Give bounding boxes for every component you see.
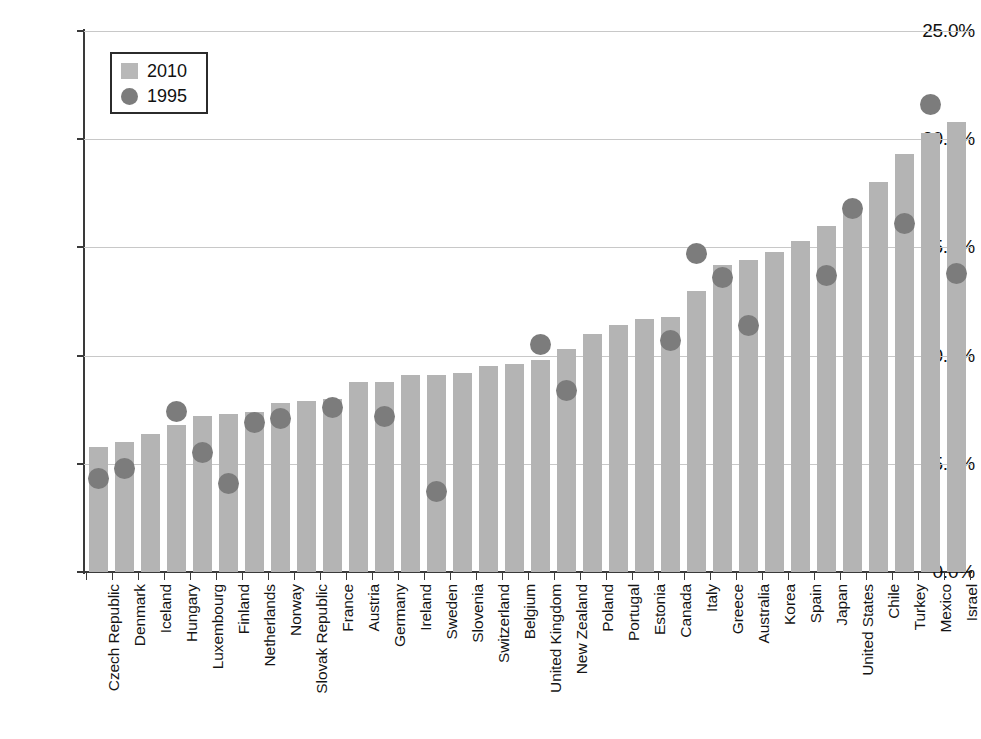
x-tick-label-turkey: Turkey — [911, 584, 929, 630]
legend-item-1995: 1995 — [121, 84, 187, 108]
x-tick-mark — [216, 572, 217, 580]
x-tick-label-italy: Italy — [703, 584, 721, 612]
x-tick-mark — [294, 572, 295, 580]
x-tick-mark — [554, 572, 555, 580]
x-tick-mark — [450, 572, 451, 580]
x-tick-mark — [762, 572, 763, 580]
x-tick-label-austria: Austria — [365, 584, 383, 632]
bar-chile — [869, 182, 888, 572]
dot-united-kingdom — [530, 334, 551, 355]
bar-estonia — [635, 319, 654, 572]
gridline — [84, 356, 972, 357]
dot-united-states — [842, 198, 863, 219]
x-tick-mark — [476, 572, 477, 580]
x-tick-label-france: France — [339, 584, 357, 632]
x-tick-label-switzerland: Switzerland — [495, 584, 513, 663]
bar-switzerland — [479, 366, 498, 572]
x-tick-mark — [86, 572, 87, 580]
x-tick-mark — [502, 572, 503, 580]
x-tick-mark — [658, 572, 659, 580]
x-tick-mark — [866, 572, 867, 580]
x-tick-label-portugal: Portugal — [625, 584, 643, 641]
legend-label-1995: 1995 — [147, 87, 187, 105]
x-tick-label-korea: Korea — [781, 584, 799, 625]
plot-area — [84, 31, 972, 572]
x-tick-mark — [528, 572, 529, 580]
dot-israel — [946, 263, 967, 284]
x-tick-mark — [398, 572, 399, 580]
x-tick-label-hungary: Hungary — [183, 584, 201, 642]
x-tick-mark — [710, 572, 711, 580]
dot-france — [322, 397, 343, 418]
bar-mexico — [921, 133, 940, 572]
bar-austria — [349, 382, 368, 572]
x-tick-label-poland: Poland — [599, 584, 617, 632]
x-tick-mark — [684, 572, 685, 580]
bar-united-states — [843, 206, 862, 572]
bar-united-kingdom — [531, 360, 550, 572]
bar-poland — [583, 334, 602, 572]
x-tick-label-estonia: Estonia — [651, 584, 669, 635]
legend-dot-swatch-icon — [121, 88, 138, 105]
bar-australia — [739, 260, 758, 572]
x-tick-label-denmark: Denmark — [131, 584, 149, 646]
x-tick-label-greece: Greece — [729, 584, 747, 634]
x-tick-mark — [190, 572, 191, 580]
x-tick-mark — [606, 572, 607, 580]
x-tick-mark — [580, 572, 581, 580]
bar-israel — [947, 122, 966, 572]
x-tick-label-finland: Finland — [235, 584, 253, 634]
x-tick-label-netherlands: Netherlands — [261, 584, 279, 666]
dot-finland — [218, 473, 239, 494]
dot-hungary — [166, 401, 187, 422]
gridline — [84, 247, 972, 248]
gridline — [84, 464, 972, 465]
x-tick-label-norway: Norway — [287, 584, 305, 636]
bar-korea — [765, 252, 784, 572]
x-tick-label-slovak-republic: Slovak Republic — [313, 584, 331, 694]
x-tick-mark — [268, 572, 269, 580]
legend-label-2010: 2010 — [147, 62, 187, 80]
gridline — [84, 31, 972, 32]
x-tick-label-new-zealand: New Zealand — [573, 584, 591, 674]
x-tick-mark — [814, 572, 815, 580]
bar-iceland — [141, 434, 160, 572]
x-tick-mark — [970, 572, 971, 580]
dot-germany — [374, 406, 395, 427]
x-tick-label-united-states: United States — [859, 584, 877, 676]
x-tick-label-slovenia: Slovenia — [469, 584, 487, 643]
dot-italy — [686, 243, 707, 264]
x-tick-mark — [138, 572, 139, 580]
x-tick-label-czech-republic: Czech Republic — [105, 584, 123, 691]
dot-canada — [660, 330, 681, 351]
dot-mexico — [920, 94, 941, 115]
x-tick-label-israel: Israel — [963, 584, 981, 621]
x-tick-label-chile: Chile — [885, 584, 903, 619]
x-tick-mark — [736, 572, 737, 580]
x-tick-label-sweden: Sweden — [443, 584, 461, 639]
dot-new-zealand — [556, 380, 577, 401]
bar-slovenia — [453, 373, 472, 572]
bar-hungary — [167, 425, 186, 572]
x-tick-label-australia: Australia — [755, 584, 773, 643]
legend-bar-swatch-icon — [121, 63, 138, 79]
dot-denmark — [114, 458, 135, 479]
bar-belgium — [505, 364, 524, 572]
gridline — [84, 139, 972, 140]
x-tick-label-united-kingdom: United Kingdom — [547, 584, 565, 693]
x-tick-label-iceland: Iceland — [157, 584, 175, 633]
bar-canada — [661, 317, 680, 572]
bar-czech-republic — [89, 447, 108, 573]
x-tick-label-germany: Germany — [391, 584, 409, 647]
x-tick-label-spain: Spain — [807, 584, 825, 623]
bar-portugal — [609, 325, 628, 572]
bar-spain — [791, 241, 810, 572]
x-tick-label-ireland: Ireland — [417, 584, 435, 631]
x-tick-mark — [424, 572, 425, 580]
x-tick-label-japan: Japan — [833, 584, 851, 626]
x-tick-label-mexico: Mexico — [937, 584, 955, 633]
bar-ireland — [401, 375, 420, 572]
x-tick-mark — [112, 572, 113, 580]
x-tick-mark — [892, 572, 893, 580]
